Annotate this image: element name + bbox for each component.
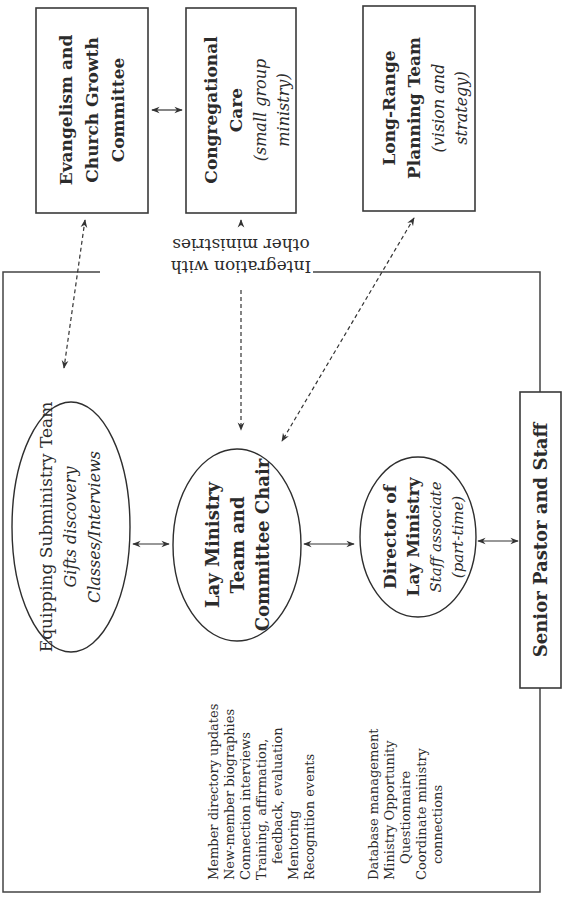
task-item: Member directory updates	[206, 704, 221, 880]
congregational-care-box: Congregational Care (small group ministr…	[186, 8, 296, 213]
evangelism-equipping-dashed-arrow	[64, 220, 85, 368]
director-line-2: Lay Ministry	[403, 476, 423, 596]
lay-ministry-line-1: Lay Ministry	[202, 481, 223, 608]
long-range-subtitle-1: (vision and	[429, 64, 448, 153]
evangelism-committee-box: Evangelism and Church Growth Committee	[36, 8, 148, 213]
equipping-subtitle-1: Gifts discovery	[61, 466, 80, 588]
long-range-line-2: Planning Team	[404, 37, 424, 179]
task-item: Connection interviews	[238, 732, 253, 880]
congregational-subtitle-2: ministry)	[274, 73, 293, 146]
task-item: Ministry Opportunity	[382, 740, 397, 880]
equipping-subtitle-2: Classes/Interviews	[85, 451, 104, 603]
task-item: New-member biographies	[222, 709, 237, 880]
congregational-line-2: Care	[226, 88, 246, 133]
equipping-subministry-ellipse: Equipping Subministry Team Gifts discove…	[12, 402, 130, 653]
task-item: Training, affirmation,	[254, 739, 269, 880]
lay-ministry-task-list: Member directory updates New-member biog…	[206, 704, 317, 880]
integration-line-2: other ministries	[172, 235, 309, 255]
director-task-list: Database management Ministry Opportunity…	[366, 728, 445, 880]
director-subtitle-1: Staff associate	[427, 481, 445, 592]
task-item: Recognition events	[302, 754, 317, 880]
equipping-title: Equipping Subministry Team	[36, 402, 56, 653]
lay-ministry-team-ellipse: Lay Ministry Team and Committee Chair	[173, 449, 301, 641]
lay-ministry-line-3: Committee Chair	[252, 458, 273, 631]
long-range-planning-box: Long-Range Planning Team (vision and str…	[363, 6, 475, 211]
long-range-line-1: Long-Range	[379, 50, 399, 165]
congregational-subtitle-1: (small group	[251, 59, 270, 162]
long-range-subtitle-2: strategy)	[452, 71, 471, 144]
senior-pastor-label: Senior Pastor and Staff	[530, 422, 551, 658]
task-item: Mentoring	[286, 811, 301, 881]
evangelism-line-1: Evangelism and	[56, 35, 76, 186]
congregational-line-1: Congregational	[201, 36, 221, 184]
evangelism-line-3: Committee	[108, 57, 128, 162]
lay-ministry-line-2: Team and	[227, 496, 248, 594]
evangelism-line-2: Church Growth	[82, 37, 102, 183]
director-line-1: Director of	[380, 483, 400, 589]
task-item: Coordinate ministry	[414, 747, 429, 880]
director-subtitle-2: (part-time)	[449, 496, 467, 579]
task-item: Database management	[366, 728, 381, 880]
lay-ministry-diagram: Evangelism and Church Growth Committee C…	[0, 0, 565, 902]
task-item: connections	[430, 785, 445, 864]
director-lay-ministry-ellipse: Director of Lay Ministry Staff associate…	[360, 457, 476, 617]
task-item: feedback, evaluation	[270, 727, 285, 864]
integration-label: Integration with other ministries	[171, 235, 311, 277]
integration-line-1: Integration with	[171, 257, 311, 277]
senior-pastor-staff-box: Senior Pastor and Staff	[520, 392, 561, 688]
task-item: Questionnaire	[398, 771, 413, 864]
